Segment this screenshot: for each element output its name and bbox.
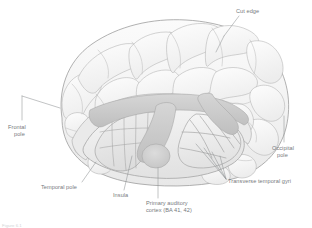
label-cut-edge-line1: Cut edge	[236, 8, 259, 15]
brain-diagram-figure: Cut edge Frontal pole Occipital pole Tem…	[0, 0, 312, 228]
figure-credit: Figure 6.1	[2, 223, 22, 228]
label-primary-auditory-cortex-line2: cortex (BA 41, 42)	[146, 207, 192, 214]
label-primary-auditory-cortex-line1: Primary auditory	[146, 200, 192, 207]
label-temporal-pole-line1: Temporal pole	[41, 184, 77, 191]
leader-frontal-pole-2	[22, 96, 60, 108]
label-frontal-pole-line2: pole	[8, 131, 26, 138]
label-occipital-pole: Occipital pole	[272, 145, 294, 159]
label-transverse-temporal-gyri-line1: Transverse temporal gyri	[228, 178, 291, 185]
label-occipital-pole-line2: pole	[272, 152, 294, 159]
label-insula-line1: Insula	[113, 192, 128, 199]
label-primary-auditory-cortex: Primary auditory cortex (BA 41, 42)	[146, 200, 192, 214]
label-frontal-pole-line1: Frontal	[8, 124, 26, 131]
primary-auditory-cortex-region	[142, 144, 170, 168]
label-occipital-pole-line1: Occipital	[272, 145, 294, 152]
label-frontal-pole: Frontal pole	[8, 124, 26, 138]
brain-illustration	[0, 0, 312, 228]
label-cut-edge: Cut edge	[236, 8, 259, 15]
label-temporal-pole: Temporal pole	[41, 184, 77, 191]
label-transverse-temporal-gyri: Transverse temporal gyri	[228, 178, 291, 185]
label-insula: Insula	[113, 192, 128, 199]
